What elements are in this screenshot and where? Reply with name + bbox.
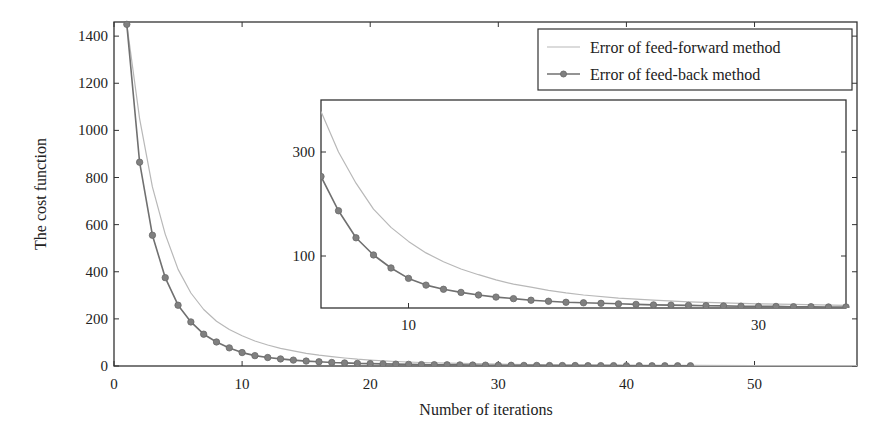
data-point: [510, 295, 516, 301]
y-tick-label: 300: [293, 144, 316, 160]
x-tick-label: 10: [401, 317, 416, 333]
data-point: [149, 232, 155, 238]
data-point: [649, 363, 655, 369]
data-point: [354, 360, 360, 366]
data-point: [585, 362, 591, 368]
data-point: [162, 274, 168, 280]
data-point: [353, 235, 359, 241]
x-tick-label: 0: [110, 376, 118, 392]
inset-frame: [321, 100, 846, 308]
data-point: [335, 208, 341, 214]
data-point: [440, 286, 446, 292]
y-tick-label: 600: [86, 217, 109, 233]
y-tick-label: 0: [101, 358, 109, 374]
legend-label-feedforward: Error of feed-forward method: [590, 39, 781, 56]
data-point: [623, 363, 629, 369]
data-point: [685, 302, 691, 308]
data-point: [580, 300, 586, 306]
data-point: [469, 362, 475, 368]
y-tick-label: 100: [293, 248, 316, 264]
data-point: [316, 359, 322, 365]
x-tick-label: 20: [363, 376, 378, 392]
data-point: [367, 360, 373, 366]
data-point: [213, 339, 219, 345]
data-point: [175, 302, 181, 308]
inset-plot: 1030100300: [293, 100, 850, 333]
data-point: [423, 282, 429, 288]
data-point: [545, 298, 551, 304]
data-point: [534, 362, 540, 368]
data-point: [405, 275, 411, 281]
data-point: [265, 354, 271, 360]
data-point: [458, 289, 464, 295]
data-point: [668, 302, 674, 308]
data-point: [388, 265, 394, 271]
data-point: [493, 294, 499, 300]
data-point: [329, 359, 335, 365]
data-point: [572, 362, 578, 368]
data-point: [615, 301, 621, 307]
data-point: [598, 362, 604, 368]
data-point: [124, 21, 130, 27]
data-point: [563, 299, 569, 305]
data-point: [370, 252, 376, 258]
data-point: [521, 362, 527, 368]
data-point: [239, 349, 245, 355]
data-point: [687, 363, 693, 369]
data-point: [136, 159, 142, 165]
x-tick-label: 30: [491, 376, 506, 392]
y-tick-label: 400: [86, 264, 109, 280]
data-point: [633, 301, 639, 307]
legend-marker-feedback: [561, 71, 567, 77]
data-point: [528, 297, 534, 303]
data-point: [559, 362, 565, 368]
y-tick-label: 1400: [78, 28, 108, 44]
data-point: [598, 300, 604, 306]
x-axis-label: Number of iterations: [419, 401, 552, 418]
data-point: [277, 356, 283, 362]
data-point: [444, 362, 450, 368]
data-point: [703, 302, 709, 308]
data-point: [188, 319, 194, 325]
legend-label-feedback: Error of feed-back method: [590, 66, 760, 83]
data-point: [418, 361, 424, 367]
data-point: [200, 331, 206, 337]
y-tick-label: 1000: [78, 122, 108, 138]
x-tick-label: 50: [747, 376, 762, 392]
data-point: [662, 363, 668, 369]
data-point: [650, 302, 656, 308]
data-point: [546, 362, 552, 368]
data-point: [252, 352, 258, 358]
data-point: [226, 345, 232, 351]
y-tick-label: 200: [86, 311, 109, 327]
data-point: [482, 362, 488, 368]
data-point: [508, 362, 514, 368]
x-tick-label: 40: [619, 376, 634, 392]
x-tick-label: 30: [751, 317, 766, 333]
y-tick-label: 800: [86, 170, 109, 186]
data-point: [303, 358, 309, 364]
legend: Error of feed-forward method Error of fe…: [538, 29, 852, 90]
data-point: [290, 357, 296, 363]
data-point: [475, 292, 481, 298]
data-point: [674, 363, 680, 369]
y-axis-label: The cost function: [32, 138, 49, 250]
data-point: [431, 362, 437, 368]
data-point: [610, 362, 616, 368]
x-tick-label: 10: [235, 376, 250, 392]
y-tick-label: 1200: [78, 75, 108, 91]
data-point: [341, 360, 347, 366]
cost-function-chart: 010203040500200400600800100012001400 103…: [0, 0, 882, 442]
data-point: [457, 362, 463, 368]
data-point: [636, 363, 642, 369]
data-point: [495, 362, 501, 368]
